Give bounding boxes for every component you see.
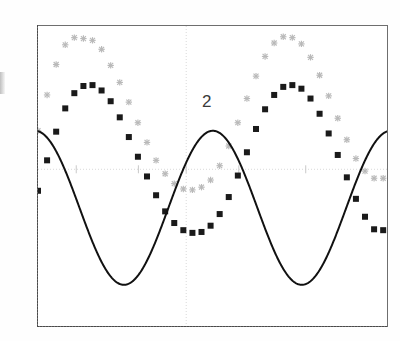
plot-canvas	[38, 26, 387, 326]
plot-frame: 2	[37, 25, 388, 327]
figure-page: 2	[0, 0, 400, 341]
plot-inline-label: 2	[202, 93, 211, 110]
cropped-axis-label-mark	[0, 72, 5, 94]
